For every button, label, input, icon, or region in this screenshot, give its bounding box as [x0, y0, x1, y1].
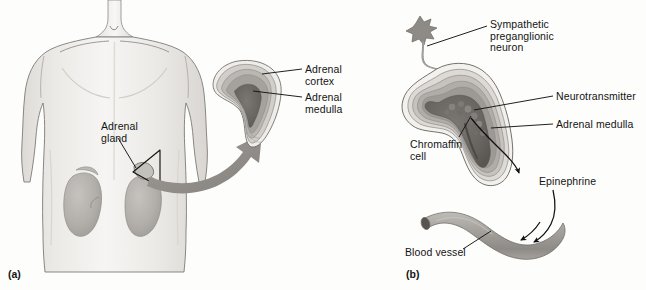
label-adrenal-medulla-b: Adrenal medulla	[556, 119, 633, 131]
chromaffin-granule	[474, 131, 479, 136]
chromaffin-granule	[458, 101, 464, 107]
chromaffin-granule	[465, 106, 472, 113]
label-sympathetic-preganglionic-neuron: Sympathetic preganglionic neuron	[490, 19, 554, 54]
panel-tag-b: (b)	[406, 268, 419, 280]
leader-sympathetic-neuron	[427, 26, 487, 46]
midline-shadow	[114, 42, 115, 180]
label-chromaffin-cell: Chromaffin cell	[410, 139, 462, 162]
figure-adrenal-gland: Adrenal gland Adrenal cortex Adrenal med…	[0, 0, 646, 290]
neck-shape	[96, 0, 133, 37]
panel-a-artwork	[22, 0, 302, 272]
epinephrine-to-vessel-arrow	[534, 190, 555, 242]
epinephrine-entry-arrow	[521, 222, 540, 240]
label-blood-vessel: Blood vessel	[405, 247, 466, 259]
chromaffin-granule	[445, 110, 450, 115]
chromaffin-granule	[476, 121, 482, 127]
adrenal-gland-cutaway	[213, 60, 281, 147]
adrenal-gland-layers	[402, 63, 513, 185]
label-adrenal-cortex: Adrenal cortex	[305, 64, 342, 87]
label-adrenal-medulla: Adrenal medulla	[305, 92, 343, 115]
preganglionic-neuron-cell-body	[406, 16, 437, 45]
chromaffin-granule	[449, 104, 455, 110]
label-neurotransmitter: Neurotransmitter	[556, 91, 636, 103]
label-adrenal-gland: Adrenal gland	[101, 121, 138, 144]
chromaffin-granule	[457, 110, 462, 115]
label-epinephrine: Epinephrine	[539, 176, 596, 188]
panel-tag-a: (a)	[8, 268, 21, 280]
